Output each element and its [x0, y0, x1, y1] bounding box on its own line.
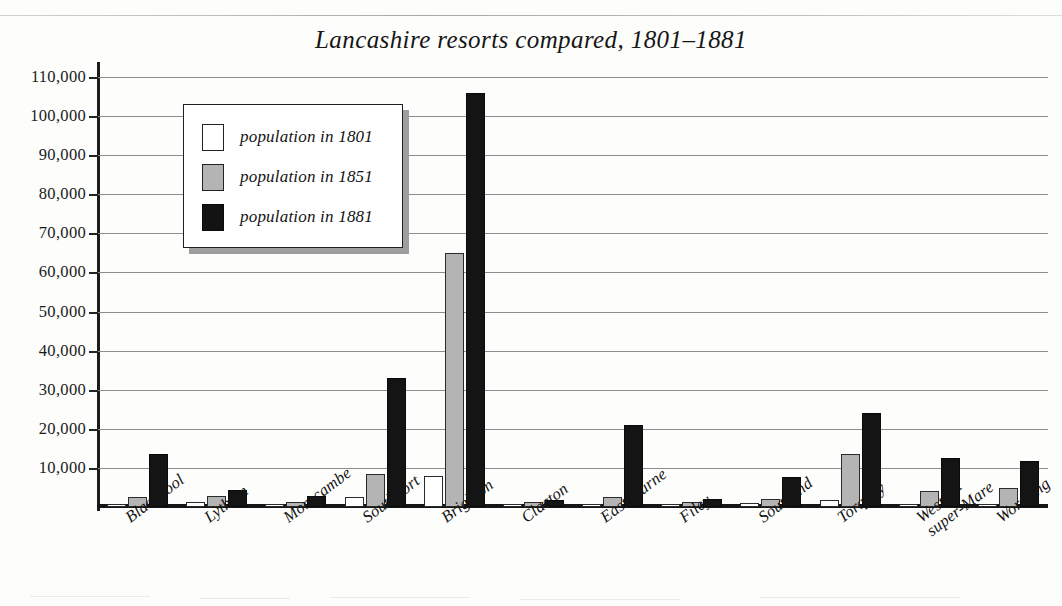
bar — [466, 93, 485, 507]
y-axis-tick-label: 30,000 — [39, 380, 86, 400]
y-axis-tick-label: 110,000 — [31, 67, 86, 87]
y-axis-tick-label: 10,000 — [39, 458, 86, 478]
y-axis-tick-label: 100,000 — [30, 106, 86, 126]
y-tick-mark — [89, 468, 98, 470]
bar-group — [573, 77, 652, 507]
legend-item-1851: population in 1851 — [202, 157, 402, 197]
bar — [107, 504, 126, 507]
bar-group — [652, 77, 731, 507]
y-axis-tick-label: 40,000 — [39, 341, 86, 361]
bar — [265, 504, 284, 507]
y-tick-mark — [89, 351, 98, 353]
bar-group — [494, 77, 573, 507]
y-axis-tick-label: 70,000 — [39, 223, 86, 243]
bar-group — [969, 77, 1048, 507]
y-axis-tick-label: 80,000 — [39, 184, 86, 204]
scan-artifact-line — [0, 15, 1062, 16]
bar — [661, 504, 680, 507]
bar-group — [98, 77, 177, 507]
legend-label-1851: population in 1851 — [240, 167, 373, 187]
y-axis-tick-label: 60,000 — [39, 262, 86, 282]
y-tick-mark — [89, 116, 98, 118]
legend-item-1881: population in 1881 — [202, 197, 402, 237]
bar — [582, 504, 601, 507]
y-tick-mark — [89, 77, 98, 79]
y-axis-tick-label: 90,000 — [39, 145, 86, 165]
scan-artifact-smudge — [200, 598, 290, 599]
bar — [503, 504, 522, 507]
bar — [186, 502, 205, 507]
grey-swatch-icon — [202, 164, 224, 191]
bar-group — [890, 77, 969, 507]
y-tick-mark — [89, 233, 98, 235]
legend-item-1801: population in 1801 — [202, 117, 402, 157]
bar — [424, 476, 443, 507]
bar — [445, 253, 464, 507]
legend-label-1881: population in 1881 — [240, 207, 373, 227]
scan-artifact-smudge — [520, 599, 680, 600]
legend-label-1801: population in 1801 — [240, 127, 373, 147]
black-swatch-icon — [202, 204, 224, 231]
y-tick-mark — [89, 272, 98, 274]
y-axis-tick-label: 50,000 — [39, 302, 86, 322]
scan-artifact-smudge — [760, 597, 960, 598]
page-title: Lancashire resorts compared, 1801–1881 — [0, 26, 1062, 54]
y-tick-mark — [89, 312, 98, 314]
y-tick-mark — [89, 155, 98, 157]
y-tick-mark — [89, 390, 98, 392]
bar-group — [415, 77, 494, 507]
bar-group — [731, 77, 810, 507]
y-tick-mark — [89, 194, 98, 196]
bar — [345, 497, 364, 507]
y-tick-mark — [89, 429, 98, 431]
bar — [820, 500, 839, 507]
scan-artifact-smudge — [330, 597, 470, 598]
chart-legend: population in 1801 population in 1851 po… — [183, 104, 403, 248]
bar — [899, 504, 918, 507]
scan-artifact-smudge — [30, 596, 150, 597]
white-swatch-icon — [202, 124, 224, 151]
bar — [740, 503, 759, 507]
y-axis-tick-label: 20,000 — [39, 419, 86, 439]
bar-group — [811, 77, 890, 507]
